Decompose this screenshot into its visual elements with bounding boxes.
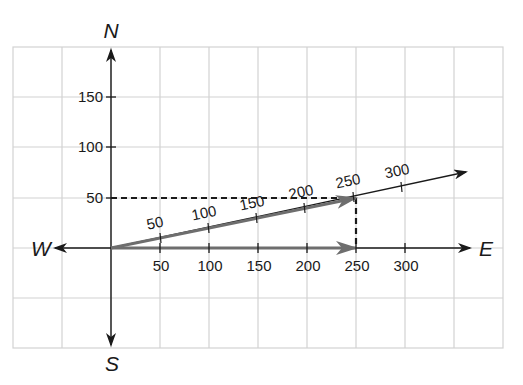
y-tick-label-100: 100 bbox=[78, 138, 103, 155]
y-tick-label-50: 50 bbox=[86, 189, 103, 206]
x-tick-label-200: 200 bbox=[295, 257, 320, 274]
x-tick-label-50: 50 bbox=[153, 257, 170, 274]
x-tick-label-100: 100 bbox=[197, 257, 222, 274]
y-tick-label-150: 150 bbox=[78, 88, 103, 105]
resultant-tick-label-100: 100 bbox=[190, 202, 218, 224]
east-label: E bbox=[479, 237, 494, 260]
south-label: S bbox=[105, 352, 119, 375]
resultant-tick-label-50: 50 bbox=[145, 213, 165, 233]
west-label: W bbox=[31, 237, 53, 260]
north-label: N bbox=[103, 19, 119, 42]
resultant-tick-label-250: 250 bbox=[334, 170, 362, 192]
resultant-tick-label-300: 300 bbox=[383, 160, 411, 182]
compass-vector-diagram: 50 100 150 50 100 150 200 250 300 50 100… bbox=[0, 0, 523, 385]
resultant-tick-label-200: 200 bbox=[287, 181, 315, 203]
x-tick-label-150: 150 bbox=[246, 257, 271, 274]
resultant-tick-label-150: 150 bbox=[238, 192, 266, 214]
x-tick-label-250: 250 bbox=[344, 257, 369, 274]
x-tick-label-300: 300 bbox=[393, 257, 418, 274]
